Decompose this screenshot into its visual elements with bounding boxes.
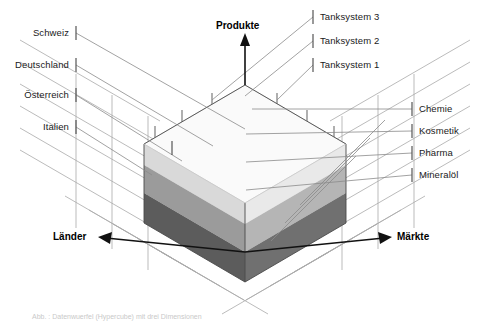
label-maerkte-chemie: Chemie [419, 104, 452, 114]
label-laender-deutschland: Deutschland [15, 60, 69, 70]
olap-cube-diagram: Schweiz Deutschland Österreich Italien T… [0, 0, 489, 323]
label-laender-italien: Italien [43, 122, 69, 132]
cube-canvas [0, 0, 489, 323]
axis-title-laender: Länder [53, 232, 86, 242]
down-left-arrow-icon [98, 232, 112, 244]
up-arrow-icon [240, 33, 250, 46]
axis-title-maerkte: Märkte [397, 232, 429, 242]
label-laender-oesterreich: Österreich [24, 90, 69, 100]
label-maerkte-kosmetik: Kosmetik [419, 126, 459, 136]
label-produkte-tanksystem-3: Tanksystem 3 [320, 12, 379, 22]
down-right-arrow-icon [378, 232, 392, 244]
label-laender-schweiz: Schweiz [33, 28, 69, 38]
axis-title-produkte: Produkte [216, 21, 259, 31]
label-produkte-tanksystem-2: Tanksystem 2 [320, 36, 379, 46]
label-produkte-tanksystem-1: Tanksystem 1 [320, 60, 379, 70]
figure-caption: Abb. : Datenwuerfel (Hypercube) mit drei… [32, 313, 202, 320]
label-maerkte-pharma: Pharma [419, 148, 453, 158]
label-maerkte-mineraloel: Mineralöl [419, 170, 458, 180]
